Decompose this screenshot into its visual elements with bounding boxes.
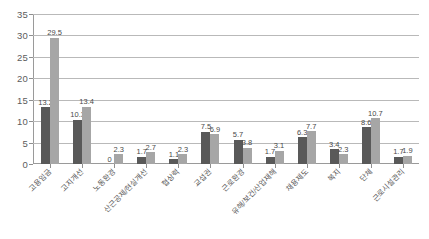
bar-value-label: 3.8 <box>242 139 252 148</box>
bar-value-label: 0 <box>108 156 112 165</box>
bar-value-label: 2.3 <box>178 146 188 155</box>
x-axis-label-slot: 협상력 <box>162 166 194 238</box>
bar: 2.7 <box>146 152 155 164</box>
bar: 6.9 <box>210 134 219 164</box>
y-axis-tick-label: 25 <box>17 51 28 62</box>
bar-group: 10.313.4 <box>66 14 98 164</box>
bar-group: 02.3 <box>98 14 130 164</box>
bar: 1.7 <box>266 157 275 164</box>
bar-group: 6.37.7 <box>291 14 323 164</box>
y-axis-tick-mark <box>29 78 33 79</box>
bar: 7.7 <box>307 131 316 164</box>
bar: 29.5 <box>50 38 59 164</box>
bar-group: 8.610.7 <box>355 14 387 164</box>
x-axis-label-slot: 고지개선 <box>66 166 98 238</box>
bar-value-label: 1.9 <box>402 147 412 156</box>
x-axis-category-label: 고용임금 <box>28 168 53 193</box>
y-axis-tick-mark <box>29 14 33 15</box>
bar: 13.4 <box>82 107 91 164</box>
bar: 2.3 <box>178 154 187 164</box>
y-axis-tick-label: 0 <box>23 159 28 170</box>
x-axis-category-label: 복지 <box>327 168 342 183</box>
bar-groups: 13.229.510.313.402.31.72.71.12.37.56.95.… <box>34 14 419 164</box>
bar: 1.1 <box>169 159 178 164</box>
plot-area: 05101520253035 13.229.510.313.402.31.72.… <box>33 14 419 164</box>
bar: 1.9 <box>403 156 412 164</box>
y-axis-tick-label: 30 <box>17 30 28 41</box>
bar: 13.2 <box>41 107 50 164</box>
x-axis-label-slot: 고용임금 <box>34 166 66 238</box>
bar-value-label: 6.9 <box>210 126 220 135</box>
bar-group: 7.56.9 <box>194 14 226 164</box>
bar-value-label: 7.7 <box>306 123 316 132</box>
bar-value-label: 2.3 <box>338 146 348 155</box>
bar-group: 3.42.3 <box>323 14 355 164</box>
bar-group: 5.73.8 <box>226 14 258 164</box>
y-axis-tick-mark <box>29 143 33 144</box>
y-axis-tick-mark <box>29 100 33 101</box>
x-axis-category-label: 교섭권 <box>194 168 214 188</box>
x-axis-category-label: 협상력 <box>161 168 181 188</box>
y-axis-tick-label: 35 <box>17 9 28 20</box>
x-axis-labels: 고용임금고지개선노동환경산근공제/현실개선협상력교섭권근로환경유해/보건/산업재… <box>34 166 419 238</box>
bar: 1.7 <box>394 157 403 164</box>
y-axis-tick-label: 20 <box>17 73 28 84</box>
bar-group: 1.71.9 <box>387 14 419 164</box>
bar: 7.5 <box>201 132 210 164</box>
y-axis-tick-label: 5 <box>23 137 28 148</box>
bar-value-label: 10.7 <box>368 110 383 119</box>
bar-group: 13.229.5 <box>34 14 66 164</box>
x-axis-category-label: 단체 <box>359 168 374 183</box>
x-axis-label-slot: 복지 <box>323 166 355 238</box>
bar-value-label: 2.7 <box>146 144 156 153</box>
x-axis-label-slot: 유해/보건/산업재해 <box>259 166 291 238</box>
bar: 2.3 <box>114 154 123 164</box>
x-axis-label-slot: 단체 <box>355 166 387 238</box>
bar-value-label: 13.4 <box>79 98 94 107</box>
y-axis-tick-mark <box>29 121 33 122</box>
bar: 10.7 <box>371 118 380 164</box>
bar: 10.3 <box>73 120 82 164</box>
bar-group: 1.12.3 <box>162 14 194 164</box>
bar-value-label: 3.1 <box>274 142 284 151</box>
bar-chart: 05101520253035 13.229.510.313.402.31.72.… <box>0 0 429 239</box>
y-axis-tick-label: 15 <box>17 94 28 105</box>
bar: 8.6 <box>362 127 371 164</box>
bar: 3.8 <box>243 148 252 164</box>
x-axis-label-slot: 산근공제/현실개선 <box>130 166 162 238</box>
y-axis-tick-mark <box>29 35 33 36</box>
y-axis-tick-mark <box>29 57 33 58</box>
bar: 6.3 <box>298 137 307 164</box>
bar-group: 1.73.1 <box>259 14 291 164</box>
x-axis-label-slot: 교섭권 <box>194 166 226 238</box>
bar: 1.7 <box>137 157 146 164</box>
bar-value-label: 29.5 <box>47 29 62 38</box>
bar: 2.3 <box>339 154 348 164</box>
y-axis-tick-label: 10 <box>17 116 28 127</box>
x-axis-label-slot: 근로시설관리 <box>387 166 419 238</box>
bar-value-label: 2.3 <box>113 146 123 155</box>
bar-group: 1.72.7 <box>130 14 162 164</box>
x-axis-label-slot: 채용제도 <box>291 166 323 238</box>
bar: 3.1 <box>275 151 284 164</box>
y-axis-tick-mark <box>29 164 33 165</box>
